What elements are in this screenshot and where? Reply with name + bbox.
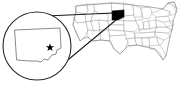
state-alabama (142, 38, 150, 46)
magnifier-inset-group (3, 12, 71, 80)
state-colorado (99, 20, 109, 30)
us-locator-map-figure (0, 0, 188, 90)
state-tennessee (135, 32, 155, 38)
map-svg-canvas (0, 0, 188, 90)
